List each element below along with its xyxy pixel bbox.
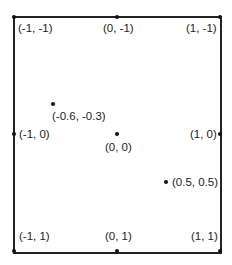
point-dot-origin xyxy=(115,132,119,136)
edge-dot-top-middle xyxy=(115,15,119,19)
corner-dot-bottom-right xyxy=(218,249,222,253)
label-point-neg06-neg03: (-0.6, -0.3) xyxy=(52,110,106,123)
edge-dot-middle-left xyxy=(12,132,16,136)
label-bottom-right: (1, 1) xyxy=(191,230,218,243)
label-bottom-left: (-1, 1) xyxy=(19,230,50,243)
point-dot-05-05 xyxy=(164,180,168,184)
corner-dot-top-right xyxy=(218,15,222,19)
point-dot-neg06-neg03 xyxy=(51,102,55,106)
label-middle-right: (1, 0) xyxy=(190,128,217,141)
label-point-origin: (0, 0) xyxy=(105,141,132,154)
edge-dot-bottom-middle xyxy=(115,249,119,253)
label-bottom-middle: (0, 1) xyxy=(105,230,132,243)
label-top-middle: (0, -1) xyxy=(103,22,134,35)
edge-dot-middle-right xyxy=(218,132,222,136)
label-top-right: (1, -1) xyxy=(186,22,217,35)
corner-dot-top-left xyxy=(12,15,16,19)
label-point-05-05: (0.5, 0.5) xyxy=(172,176,218,189)
corner-dot-bottom-left xyxy=(12,249,16,253)
label-top-left: (-1, -1) xyxy=(18,22,53,35)
label-middle-left: (-1, 0) xyxy=(19,128,50,141)
